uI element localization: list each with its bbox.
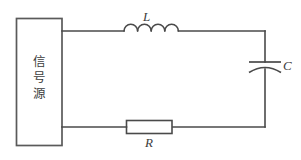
source-label-char-1: 信: [33, 54, 46, 70]
source-label-char-2: 号: [33, 70, 46, 86]
resistor-body: [127, 121, 173, 134]
inductor-coil-arc-3: [151, 24, 165, 31]
inductor-coil-arc-1: [124, 24, 138, 31]
capacitor-label: C: [283, 59, 292, 72]
source-label-char-3: 源: [33, 86, 46, 102]
inductor-coil-arc-4: [165, 24, 179, 31]
resistor-label: R: [145, 136, 153, 149]
circuit-diagram: 信 号 源 L C R: [0, 0, 301, 160]
signal-source-label: 信 号 源: [16, 54, 62, 102]
inductor-coil-arc-2: [138, 24, 152, 31]
inductor-label: L: [143, 10, 150, 23]
